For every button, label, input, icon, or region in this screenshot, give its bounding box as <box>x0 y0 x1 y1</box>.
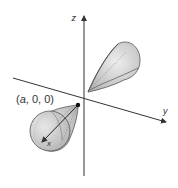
z-axis-label: z <box>71 13 77 23</box>
upper-lobe <box>88 42 140 92</box>
point-label-rest: , 0, 0) <box>26 93 54 105</box>
point-label: (a, 0, 0) <box>16 93 54 105</box>
diagram-svg: z y x (a, 0, 0) <box>0 0 178 188</box>
y-axis-label: y <box>162 106 168 116</box>
point-a00 <box>76 103 80 107</box>
diagram-canvas: z y x (a, 0, 0) <box>0 0 178 188</box>
